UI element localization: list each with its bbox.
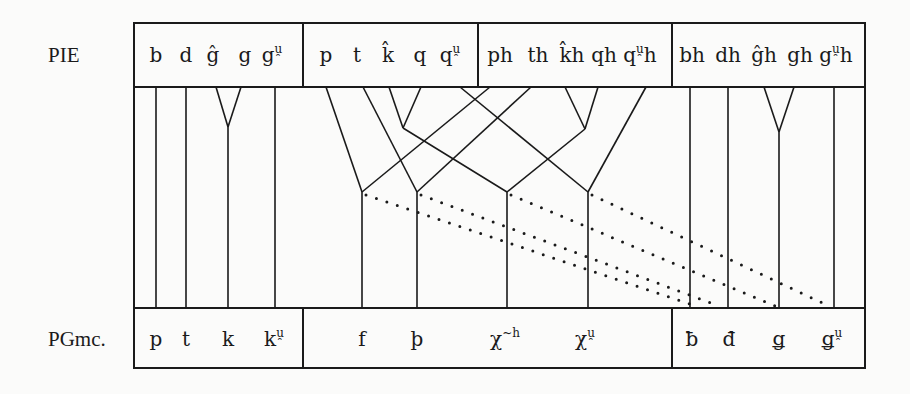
pie-phoneme: ĝh (751, 43, 777, 67)
sound-change-edge (403, 128, 507, 192)
pie-phoneme: gu̯ (262, 42, 283, 67)
pgmc-phoneme: ǥu̯ (821, 326, 843, 351)
sound-change-edge (417, 87, 531, 192)
sound-change-edge (362, 87, 490, 192)
pie-phoneme-row: bdĝggu̯ptk̂qqu̯phthk̂hqhqu̯hbhdhĝhghgu̯h (150, 41, 853, 67)
sound-change-edge (389, 87, 403, 128)
pie-phoneme: qh (591, 43, 617, 67)
pie-phoneme: k̂h (559, 41, 585, 67)
pgmc-phoneme: ƀ (686, 327, 699, 351)
sound-change-edge (779, 87, 794, 132)
sound-change-edge (565, 87, 585, 129)
pgmc-phoneme: f (358, 327, 367, 351)
sound-change-edge (403, 87, 421, 128)
verner-dotted-lines (366, 195, 829, 306)
sound-change-edge (507, 129, 585, 192)
pie-phoneme: gu̯h (819, 42, 853, 67)
pgmc-phoneme: k (222, 327, 235, 351)
pgmc-phoneme: p (150, 327, 163, 351)
sound-change-edge (764, 87, 779, 132)
verner-variant-edge (421, 195, 719, 306)
pie-phoneme: bh (679, 43, 705, 67)
verner-variant-edge (592, 195, 829, 306)
pgmc-phoneme: ǥ (772, 327, 786, 351)
pie-phoneme: qu̯h (623, 42, 657, 67)
pie-phoneme: q (414, 43, 427, 67)
verner-variant-edge (511, 195, 775, 306)
pie-phoneme: d (180, 43, 193, 67)
pie-phoneme: g (239, 43, 252, 67)
sound-change-diagram: PIE PGmc. bdĝggu̯ptk̂qqu̯phthk̂hqhqu̯hbh… (0, 0, 910, 394)
pie-phoneme: dh (715, 43, 741, 67)
row-label-pie: PIE (48, 43, 80, 67)
sound-change-edge (363, 87, 417, 192)
sound-change-edge (585, 87, 598, 129)
pie-phoneme: ĝ (207, 43, 220, 67)
sound-change-edge (228, 87, 241, 127)
row-label-pgmc: PGmc. (48, 327, 106, 351)
correspondence-lines (156, 87, 834, 308)
pgmc-phoneme-row: ptkku̯fþχ~hχu̯ƀđǥǥu̯ (150, 326, 843, 351)
pie-phoneme: qu̯ (440, 42, 461, 67)
verner-variant-edge (366, 195, 690, 304)
table-frame (134, 23, 865, 368)
pgmc-phoneme: ku̯ (264, 326, 284, 351)
pie-phoneme: p (320, 43, 333, 67)
pgmc-phoneme: þ (411, 327, 424, 351)
pie-phoneme: k̂ (381, 41, 395, 67)
pgmc-phoneme: t (182, 327, 190, 351)
sound-change-edge (588, 87, 646, 192)
pie-phoneme: th (528, 43, 549, 67)
pie-phoneme: b (150, 43, 163, 67)
pie-phoneme: ph (487, 43, 513, 67)
pgmc-phoneme: χ~h (490, 326, 520, 351)
sound-change-edge (216, 87, 228, 127)
pgmc-phoneme: đ (723, 327, 736, 351)
sound-change-edge (326, 87, 362, 192)
pie-phoneme: gh (787, 43, 813, 67)
sound-change-edge (460, 87, 588, 192)
pgmc-phoneme: χu̯ (575, 326, 595, 351)
pie-phoneme: t (353, 43, 361, 67)
